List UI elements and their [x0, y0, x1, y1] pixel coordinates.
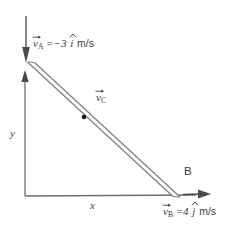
vc-subscript: C	[101, 96, 106, 105]
x-axis-label: x	[90, 200, 95, 211]
va-equals: =	[46, 37, 53, 49]
rod-cap-a	[28, 62, 35, 63]
rod-edge-lower	[35, 63, 181, 198]
label-velocity-c: vC	[96, 92, 106, 105]
vb-vector-symbol: v	[163, 206, 168, 217]
y-axis-arrowhead-icon	[21, 70, 28, 82]
va-subscript: A	[38, 42, 43, 51]
vb-unit-vector-letter: j	[192, 205, 195, 217]
physics-diagram-figure: vA =−3 i m/s vB =4 j m/s vC x y B	[0, 0, 239, 241]
va-arrowhead-icon	[22, 47, 30, 63]
vb-equals: =	[176, 205, 183, 217]
vb-arrow-shaft	[183, 194, 200, 195]
va-units: m/s	[77, 37, 94, 49]
vb-unit-vector: j	[191, 206, 196, 217]
x-axis-line	[25, 195, 196, 196]
point-c-marker	[82, 115, 87, 120]
vb-arrowhead-icon	[198, 189, 211, 198]
va-unit-vector: i	[69, 38, 74, 49]
va-unit-vector-letter: i	[70, 37, 73, 49]
label-velocity-b: vB =4 j m/s	[163, 206, 216, 219]
label-velocity-a: vA =−3 i m/s	[33, 38, 94, 51]
vc-symbol-letter: v	[96, 91, 101, 103]
vb-value: 4	[183, 205, 189, 217]
va-vector-symbol: v	[33, 38, 38, 49]
point-b-label: B	[184, 166, 192, 178]
vc-vector-symbol: v	[96, 92, 101, 103]
vb-units: m/s	[199, 205, 216, 217]
va-value: −3	[54, 37, 67, 49]
va-symbol-letter: v	[33, 37, 38, 49]
vb-symbol-letter: v	[163, 205, 168, 217]
rod-cap-b	[173, 197, 180, 198]
rod-edge-upper	[28, 62, 174, 197]
vb-subscript: B	[168, 210, 173, 219]
rod-ab	[28, 62, 181, 197]
y-axis-label: y	[10, 128, 15, 139]
